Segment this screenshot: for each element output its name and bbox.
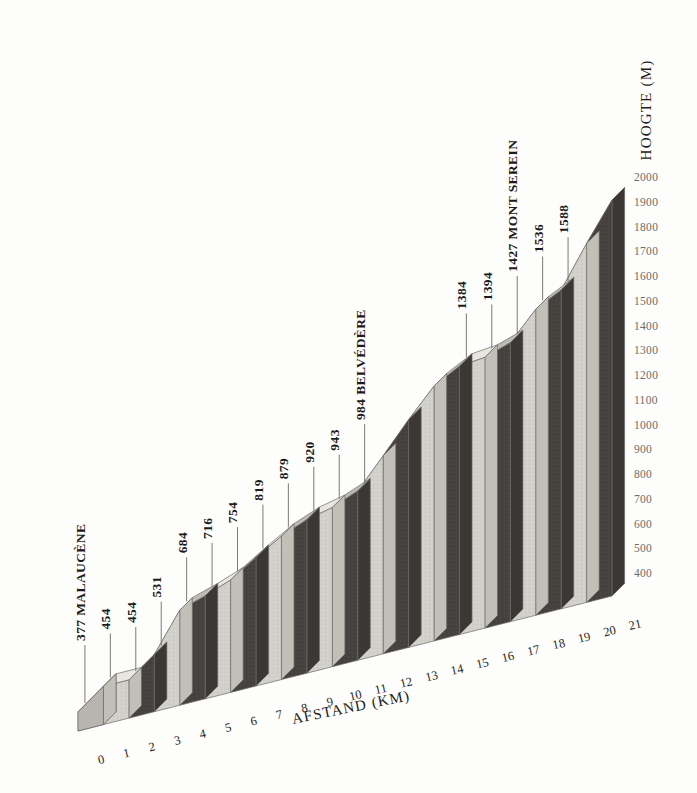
y-axis-title: HOOGTE (M) — [638, 60, 655, 161]
callout-label: 1536 — [531, 224, 546, 253]
y-tick-label: 500 — [634, 542, 652, 554]
bar-side — [485, 345, 498, 628]
callout-label: 1427 MONT SEREIN — [505, 140, 520, 272]
callout-label: 943 — [327, 429, 342, 450]
chart-canvas: 0123456789101112131415161718192021 40050… — [0, 0, 697, 793]
bar-side — [612, 187, 625, 596]
x-tick-label: 5 — [224, 720, 233, 735]
callout-label: 716 — [200, 518, 215, 539]
y-tick-label: 700 — [634, 493, 652, 505]
bar-side — [180, 598, 193, 706]
y-axis-ticks: 4005006007008009001000110012001300140015… — [634, 171, 658, 579]
x-tick-label: 1 — [122, 746, 131, 761]
bar-side — [256, 545, 269, 686]
x-tick-label: 4 — [198, 726, 208, 741]
x-tick-label: 6 — [249, 714, 258, 729]
y-tick-label: 1900 — [634, 196, 658, 208]
bar-side — [281, 524, 294, 680]
bar-side — [154, 642, 167, 712]
bar-side — [231, 567, 244, 692]
x-tick-label: 15 — [475, 655, 490, 671]
bar-side — [587, 231, 600, 602]
x-tick-label: 3 — [173, 733, 182, 748]
y-tick-label: 800 — [634, 468, 652, 480]
elevation-profile-chart: 0123456789101112131415161718192021 40050… — [0, 0, 697, 793]
x-tick-label: 19 — [577, 629, 592, 645]
x-tick-label: 16 — [500, 649, 515, 665]
y-axis-title-text: HOOGTE (M) — [638, 60, 655, 161]
callout-label: 454 — [124, 602, 139, 623]
bar-side — [383, 443, 396, 654]
bar-side — [307, 507, 320, 673]
bar-side — [332, 495, 345, 667]
y-tick-label: 600 — [634, 518, 652, 530]
y-tick-label: 1700 — [634, 245, 658, 257]
x-tick-label: 2 — [147, 739, 156, 754]
callout-label: 377 MALAUCÈNE — [73, 524, 88, 641]
callout-label: 1588 — [556, 205, 571, 234]
y-tick-label: 1600 — [634, 270, 658, 282]
x-tick-label: 17 — [526, 642, 541, 658]
callout-label: 1394 — [480, 272, 495, 301]
bar-side — [459, 354, 472, 635]
bar-side — [409, 407, 422, 647]
callout-label: 1384 — [454, 281, 469, 310]
y-tick-label: 1300 — [634, 344, 658, 356]
y-tick-label: 1000 — [634, 419, 658, 431]
x-tick-label: 0 — [96, 752, 105, 767]
y-tick-label: 1200 — [634, 369, 658, 381]
callout-label: 920 — [302, 441, 317, 462]
x-tick-label: 18 — [551, 636, 566, 652]
callout-label: 454 — [98, 608, 113, 629]
y-tick-label: 1500 — [634, 295, 658, 307]
x-tick-label: 7 — [274, 707, 283, 722]
x-tick-label: 13 — [424, 668, 439, 684]
bar-side — [205, 583, 218, 699]
callout-label: 754 — [226, 502, 241, 523]
x-tick-label: 14 — [449, 661, 465, 678]
bar-front-start — [78, 686, 103, 731]
y-tick-label: 2000 — [634, 171, 658, 183]
bar-side — [561, 277, 574, 608]
y-tick-label: 1100 — [634, 394, 658, 406]
y-tick-label: 1800 — [634, 221, 658, 233]
y-tick-label: 400 — [634, 567, 652, 579]
bar-side — [536, 297, 549, 616]
y-tick-label: 900 — [634, 443, 652, 455]
callout-label: 984 BELVÉDÈRE — [353, 309, 368, 420]
callout-label: 531 — [149, 576, 164, 597]
bar-side — [510, 330, 523, 622]
y-tick-label: 1400 — [634, 320, 658, 332]
bar-side — [434, 373, 447, 641]
callout-label: 819 — [251, 479, 266, 500]
callout-label: 684 — [175, 532, 190, 553]
bar-side — [358, 478, 371, 660]
x-tick-label: 21 — [627, 616, 642, 632]
x-tick-label: 20 — [602, 623, 617, 639]
callout-label: 879 — [276, 458, 291, 479]
